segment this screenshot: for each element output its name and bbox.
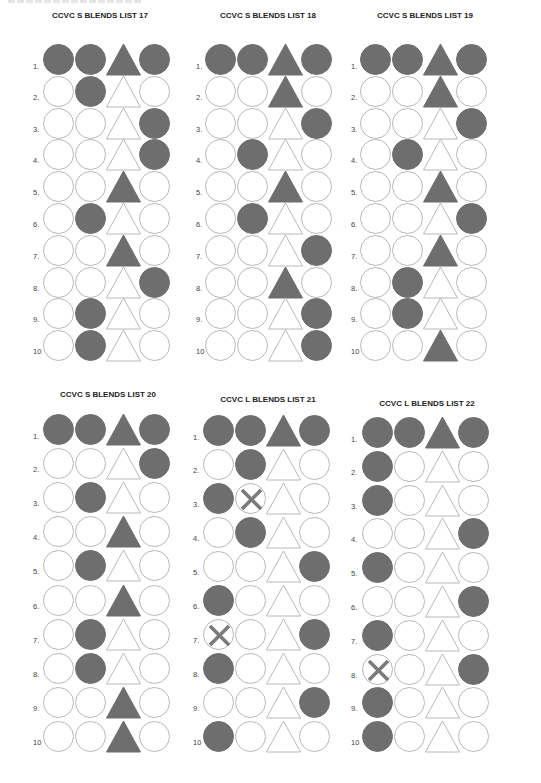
triangle-shape <box>268 329 303 362</box>
row-number-label: 10 <box>351 347 359 356</box>
row-number-label: 1. <box>351 435 357 444</box>
circle-shape <box>205 235 236 266</box>
circle-shape-shaded <box>235 517 266 548</box>
row-number-label: 4. <box>196 156 202 165</box>
triangle-shape-shaded <box>268 266 303 299</box>
circle-shape <box>139 585 170 616</box>
triangle-shape-shaded <box>423 43 458 76</box>
circle-shape <box>75 108 106 139</box>
triangle-shape-shaded <box>106 413 141 446</box>
row-number-label: 1. <box>193 433 199 442</box>
cross-out-icon <box>204 620 235 651</box>
circle-shape <box>394 518 425 549</box>
triangle-shape <box>106 549 141 582</box>
circle-shape-shaded <box>43 44 74 75</box>
cross-out-icon <box>363 655 394 686</box>
circle-shape <box>456 235 487 266</box>
circle-shape-shaded <box>139 108 170 139</box>
row-number-label: 6. <box>33 220 39 229</box>
row-number-label: 9. <box>33 315 39 324</box>
row-number-label: 1. <box>33 432 39 441</box>
triangle-shape <box>425 720 460 753</box>
circle-shape <box>43 516 74 547</box>
circle-shape-shaded <box>75 619 106 650</box>
row-number-label: 10 <box>196 347 204 356</box>
circle-shape <box>392 203 423 234</box>
circle-shape <box>394 451 425 482</box>
circle-shape-shaded <box>299 687 330 718</box>
circle-shape <box>205 108 236 139</box>
circle-shape <box>235 551 266 582</box>
circle-shape <box>394 552 425 583</box>
circle-shape <box>360 330 391 361</box>
circle-shape-shaded <box>75 482 106 513</box>
triangle-shape-shaded <box>106 234 141 267</box>
panel-title: CCVC S BLENDS LIST 20 <box>60 390 156 399</box>
row-number-label: 7. <box>33 252 39 261</box>
circle-shape-shaded <box>458 417 489 448</box>
triangle-shape <box>425 450 460 483</box>
triangle-shape <box>425 551 460 584</box>
circle-shape <box>299 721 330 752</box>
triangle-shape-shaded <box>106 515 141 548</box>
circle-shape <box>362 518 393 549</box>
triangle-shape <box>425 585 460 618</box>
circle-shape-shaded <box>362 552 393 583</box>
circle-shape <box>392 108 423 139</box>
triangle-shape-shaded <box>423 170 458 203</box>
triangle-shape-shaded <box>266 414 301 447</box>
triangle-shape-shaded <box>268 170 303 203</box>
triangle-shape-shaded <box>106 43 141 76</box>
triangle-shape <box>266 584 301 617</box>
triangle-shape <box>266 686 301 719</box>
circle-shape <box>75 235 106 266</box>
row-number-label: 9. <box>193 704 199 713</box>
circle-shape <box>237 171 268 202</box>
circle-shape <box>360 76 391 107</box>
circle-shape-shaded <box>456 44 487 75</box>
circle-shape-shaded <box>139 139 170 170</box>
triangle-shape <box>425 517 460 550</box>
circle-shape-shaded <box>299 551 330 582</box>
triangle-shape-shaded <box>106 584 141 617</box>
circle-shape <box>139 619 170 650</box>
circle-shape-shaded <box>203 721 234 752</box>
triangle-shape <box>423 138 458 171</box>
circle-shape <box>43 298 74 329</box>
circle-shape <box>139 687 170 718</box>
row-number-label: 3. <box>196 125 202 134</box>
triangle-shape <box>266 550 301 583</box>
circle-shape-shaded <box>75 298 106 329</box>
row-number-label: 5. <box>33 567 39 576</box>
circle-shape <box>205 171 236 202</box>
circle-shape <box>360 267 391 298</box>
cross-out-icon <box>236 484 267 515</box>
circle-shape-shaded <box>139 44 170 75</box>
circle-shape <box>301 267 332 298</box>
row-number-label: 4. <box>33 156 39 165</box>
circle-shape <box>75 448 106 479</box>
circle-shape <box>301 171 332 202</box>
row-number-label: 2. <box>193 466 199 475</box>
panel-title: CCVC S BLENDS LIST 19 <box>377 11 473 20</box>
row-number-label: 6. <box>351 603 357 612</box>
row-number-label: 4. <box>351 156 357 165</box>
circle-shape <box>299 585 330 616</box>
circle-shape-shaded <box>456 108 487 139</box>
row-number-label: 8. <box>196 284 202 293</box>
circle-shape-crossed <box>235 483 266 514</box>
row-number-label: 1. <box>351 62 357 71</box>
circle-shape <box>139 298 170 329</box>
triangle-shape <box>423 107 458 140</box>
circle-shape <box>392 330 423 361</box>
triangle-shape <box>106 202 141 235</box>
triangle-shape <box>268 234 303 267</box>
triangle-shape <box>425 653 460 686</box>
row-number-label: 6. <box>196 220 202 229</box>
circle-shape <box>205 267 236 298</box>
circle-shape <box>43 482 74 513</box>
triangle-shape <box>266 448 301 481</box>
circle-shape-shaded <box>458 586 489 617</box>
circle-shape <box>235 585 266 616</box>
circle-shape-crossed <box>203 619 234 650</box>
